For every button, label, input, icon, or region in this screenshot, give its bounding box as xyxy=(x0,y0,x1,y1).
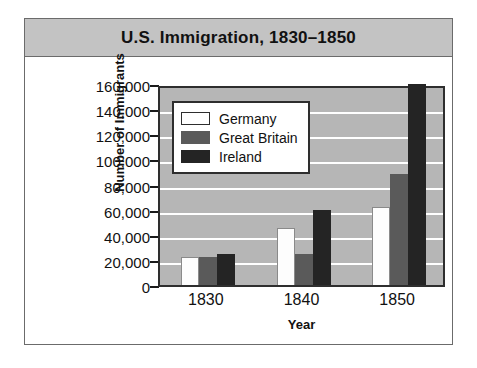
bar-ireland-1840 xyxy=(313,210,331,285)
legend-label: Great Britain xyxy=(219,130,298,146)
legend-label: Germany xyxy=(219,111,277,127)
bar-germany-1830 xyxy=(181,257,199,285)
bar-great-britain-1830 xyxy=(199,257,217,285)
bar-germany-1840 xyxy=(277,228,295,285)
y-axis-tick-label: 0 xyxy=(56,279,150,296)
bar-ireland-1830 xyxy=(217,254,235,285)
y-axis-tick-label: 40,000 xyxy=(56,228,150,245)
bar-great-britain-1840 xyxy=(295,254,313,285)
y-axis-tick-label: 160,000 xyxy=(56,78,150,95)
x-axis-tick-label: 1850 xyxy=(352,291,442,309)
y-axis-tick-label: 100,000 xyxy=(56,153,150,170)
x-axis-tick-label: 1830 xyxy=(161,291,251,309)
y-axis-tick-label: 140,000 xyxy=(56,103,150,120)
y-axis-tick-label: 80,000 xyxy=(56,178,150,195)
y-axis-tick-labels: 020,00040,00060,00080,000100,000120,0001… xyxy=(56,86,150,287)
y-axis-tick-label: 120,000 xyxy=(56,128,150,145)
bar-ireland-1850 xyxy=(408,84,426,285)
legend-item-germany: Germany xyxy=(181,109,298,128)
bar-germany-1850 xyxy=(372,207,390,285)
x-axis-tick-labels: 183018401850 xyxy=(158,291,445,313)
chart-title: U.S. Immigration, 1830–1850 xyxy=(121,28,356,48)
legend-swatch-great-britain xyxy=(181,131,210,144)
x-axis-label: Year xyxy=(158,317,445,332)
legend-item-great-britain: Great Britain xyxy=(181,128,298,147)
bar-great-britain-1850 xyxy=(390,174,408,285)
y-axis-tick-label: 60,000 xyxy=(56,203,150,220)
chart-figure: U.S. Immigration, 1830–1850 Number of Im… xyxy=(24,18,453,345)
legend-label: Ireland xyxy=(219,149,262,165)
y-axis-tick-label: 20,000 xyxy=(56,253,150,270)
legend-swatch-germany xyxy=(181,112,210,125)
legend-swatch-ireland xyxy=(181,150,210,163)
x-axis-tick-label: 1840 xyxy=(257,291,347,309)
chart-title-band: U.S. Immigration, 1830–1850 xyxy=(25,19,452,57)
chart-legend: GermanyGreat BritainIreland xyxy=(172,101,310,174)
legend-item-ireland: Ireland xyxy=(181,147,298,166)
